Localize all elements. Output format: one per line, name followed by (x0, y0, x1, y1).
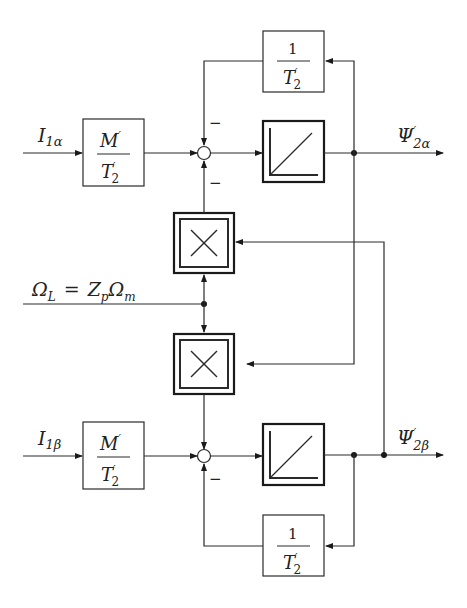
sign-alpha-top: − (209, 114, 222, 132)
block-diagram: I1α I1β M′ T′2 M′ T′2 1 T′2 1 T′2 − − − … (0, 0, 467, 608)
input-beta-label: I1β (37, 427, 61, 452)
feedback-alpha-to-sum-line (204, 61, 263, 145)
mt-alpha-numerator: M′ (99, 129, 121, 151)
sign-alpha-bottom: − (209, 174, 222, 192)
mt-beta-numerator: M′ (99, 432, 121, 454)
sign-beta-bottom: − (209, 470, 222, 488)
summing-junction-alpha (198, 147, 211, 160)
inv-t-beta-numerator: 1 (288, 525, 298, 543)
summing-junction-beta (198, 450, 211, 463)
feedback-beta-down-line (326, 455, 354, 546)
inv-t-alpha-numerator: 1 (288, 40, 298, 58)
psi-alpha-to-bottom-multiplier-line (247, 153, 354, 364)
input-alpha-label: I1α (37, 124, 63, 149)
speed-input-label: ΩL=ZpΩm (31, 278, 136, 304)
feedback-alpha-up-line (326, 61, 354, 153)
output-alpha-label: Ψ′2α (397, 124, 430, 151)
output-beta-label: Ψ′2β (397, 426, 429, 453)
branch-point-beta-cross (381, 452, 387, 458)
